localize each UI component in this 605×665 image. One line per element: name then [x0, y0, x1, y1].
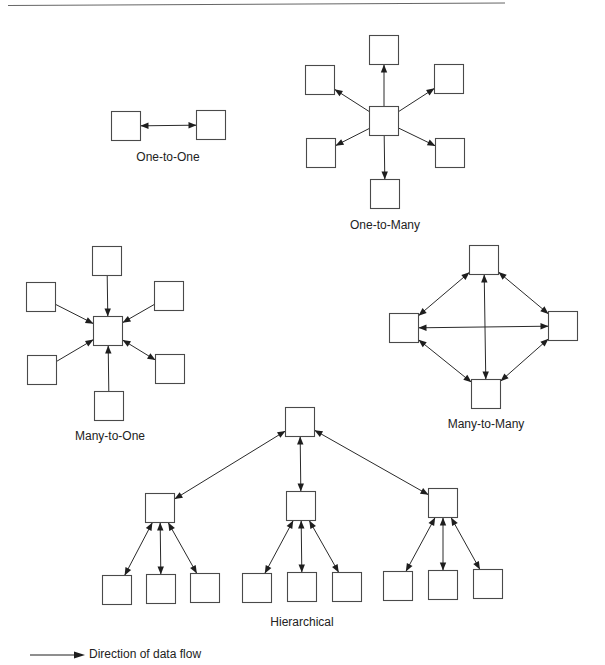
label-one-to-many: One-to-Many — [350, 218, 420, 232]
label-one-to-one: One-to-One — [136, 150, 199, 164]
one-to-many-leaf — [436, 139, 465, 168]
hierarchical-mid-node — [287, 492, 316, 521]
hierarchical-leaf — [474, 570, 503, 599]
one-to-many-leaf — [370, 36, 399, 65]
flow-arrow — [419, 272, 470, 315]
nodes-layer — [27, 36, 578, 605]
one-to-many-leaf — [371, 180, 400, 209]
hierarchical-leaf — [333, 573, 362, 602]
flow-arrow — [399, 128, 436, 146]
flow-arrow — [141, 125, 197, 126]
many-to-one-leaf — [155, 282, 184, 311]
flow-arrow — [125, 523, 153, 576]
hierarchical-mid-node — [146, 494, 175, 523]
right-arrow-icon — [30, 650, 90, 660]
many-to-one-leaf — [93, 247, 122, 276]
hierarchical-leaf — [288, 573, 317, 602]
flow-arrow — [419, 326, 549, 328]
many-to-many-node — [470, 246, 499, 275]
one-to-many-leaf — [307, 139, 336, 168]
flow-arrow — [168, 523, 197, 574]
hierarchical-leaf — [147, 575, 176, 604]
hierarchical-leaf — [429, 571, 458, 600]
one-to-one-node — [197, 111, 226, 140]
flow-arrow — [406, 518, 435, 572]
flow-arrow — [336, 128, 370, 145]
flow-arrow — [499, 272, 549, 314]
flow-arrow — [315, 430, 429, 495]
hierarchical-mid-node — [429, 489, 458, 518]
flow-arrow — [451, 518, 480, 570]
one-to-many-hub — [370, 107, 399, 136]
flow-arrow — [123, 304, 155, 322]
flow-arrow — [399, 88, 435, 111]
flow-arrow — [309, 521, 339, 573]
flow-arrow — [501, 339, 549, 381]
many-to-one-leaf — [156, 355, 185, 384]
hierarchical-leaf — [191, 574, 220, 603]
many-to-many-node — [549, 312, 578, 341]
many-to-many-node — [472, 380, 501, 409]
flow-arrow — [107, 276, 108, 317]
label-many-to-many: Many-to-Many — [448, 417, 525, 431]
label-hierarchical: Hierarchical — [270, 615, 333, 629]
flow-arrow — [384, 136, 385, 180]
label-many-to-one: Many-to-One — [75, 429, 145, 443]
one-to-many-leaf — [306, 66, 335, 95]
one-to-many-leaf — [435, 65, 464, 94]
many-to-one-leaf — [95, 392, 124, 421]
flow-arrow — [301, 521, 302, 573]
hierarchical-root — [286, 408, 315, 437]
legend-direction-of-data-flow: Direction of data flow — [89, 647, 201, 661]
many-to-one-leaf — [28, 356, 57, 385]
hierarchical-leaf — [384, 572, 413, 601]
flow-arrow — [57, 340, 94, 362]
flow-arrow — [123, 340, 156, 360]
one-to-one-node — [112, 112, 141, 141]
flow-arrow — [175, 431, 286, 499]
many-to-one-leaf — [27, 283, 56, 312]
diagram-canvas — [0, 0, 605, 665]
flow-arrow — [160, 523, 161, 575]
hierarchical-leaf — [103, 576, 132, 605]
flow-arrow — [300, 437, 301, 492]
many-to-many-node — [390, 314, 419, 343]
hierarchical-leaf — [243, 574, 272, 603]
flow-arrow — [56, 304, 94, 323]
flow-arrow — [335, 89, 370, 111]
flow-arrow — [108, 346, 109, 392]
flow-arrow — [265, 521, 293, 574]
many-to-one-hub — [94, 317, 123, 346]
flow-arrow — [419, 340, 472, 383]
